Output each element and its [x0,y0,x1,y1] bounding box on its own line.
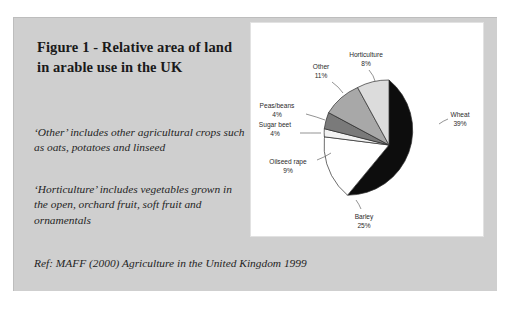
pie-label-horticulture-name: Horticulture [349,51,383,58]
pie-label-oilseed-rape-name: Oilseed rape [269,158,307,166]
leader-line-barley [356,200,361,209]
pie-label-sugar-beet-name: Sugar beet [259,121,291,129]
pie-chart: Horticulture 8% Other 11% Peas/beans 4% … [251,23,485,238]
pie-label-sugar-beet-percent: 4% [270,130,280,137]
leader-line-peas-beans [306,114,325,120]
figure-text-column: Figure 1 - Relative area of land in arab… [13,17,251,291]
figure-reference: Ref: MAFF (2000) Agriculture in the Unit… [34,256,294,271]
note-horticulture-definition: ‘Horticulture’ includes vegetables grown… [34,182,248,228]
pie-chart-panel: Horticulture 8% Other 11% Peas/beans 4% … [250,22,484,237]
figure-title: Figure 1 - Relative area of land in arab… [37,37,233,77]
pie-label-other-name: Other [313,63,330,70]
figure-card: Figure 1 - Relative area of land in arab… [13,17,497,291]
pie-label-other-percent: 11% [315,72,328,79]
pie-label-wheat-percent: 39% [453,120,466,127]
pie-label-barley-name: Barley [355,213,374,221]
pie-label-barley-percent: 25% [357,222,370,229]
figure-screenshot: Figure 1 - Relative area of land in arab… [0,0,510,309]
pie-label-peas-beans-name: Peas/beans [260,102,296,109]
pie-label-wheat-name: Wheat [450,111,469,118]
leader-line-wheat [439,119,448,124]
pie-label-horticulture-percent: 8% [361,60,371,67]
leader-line-horticulture [369,70,375,81]
leader-line-other [332,82,343,93]
pie-label-peas-beans-percent: 4% [272,111,282,118]
pie-label-oilseed-rape-percent: 9% [283,167,293,174]
note-other-definition: ‘Other’ includes other agricultural crop… [34,125,248,156]
